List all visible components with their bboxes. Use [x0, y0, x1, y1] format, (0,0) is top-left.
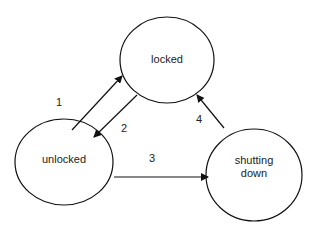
transition-4-label: 4: [196, 113, 202, 125]
state-shutting-down-label-line2: down: [222, 167, 286, 180]
transition-1-arrow: [72, 76, 122, 130]
state-shutting-down-label-line1: shutting: [222, 154, 286, 167]
state-locked-label: locked: [137, 53, 197, 66]
state-shutting-down-label: shutting down: [222, 154, 286, 180]
state-diagram-canvas: [0, 0, 312, 229]
transition-3-label: 3: [149, 152, 155, 164]
transition-2-arrow: [94, 95, 137, 137]
transition-1-label: 1: [56, 96, 62, 108]
transition-2-label: 2: [121, 122, 127, 134]
state-unlocked-label: unlocked: [34, 153, 94, 166]
